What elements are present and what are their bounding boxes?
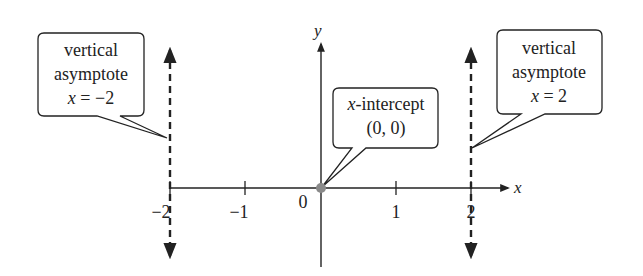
tick-label-neg1: −1 xyxy=(229,202,248,222)
callout-left-asymptote: vertical asymptote x = −2 xyxy=(38,33,167,138)
diagram: x y −2 −1 1 2 0 vertical asymptote x = −… xyxy=(0,0,643,276)
callout-left-line2: asymptote xyxy=(54,64,128,84)
callout-center-line2: (0, 0) xyxy=(367,118,406,139)
y-axis-label: y xyxy=(312,21,322,40)
x-axis-label: x xyxy=(513,178,522,197)
callout-x-intercept: x-intercept (0, 0) xyxy=(322,88,438,187)
callout-center-line1: x-intercept xyxy=(347,94,425,114)
callout-right-equation: x = 2 xyxy=(530,86,567,106)
origin-label: 0 xyxy=(299,192,308,212)
x-axis: x xyxy=(170,178,522,197)
callout-right-line2: asymptote xyxy=(512,62,586,82)
callout-right-asymptote: vertical asymptote x = 2 xyxy=(472,30,602,148)
callout-right-line1: vertical xyxy=(522,38,576,58)
x-ticks: −2 −1 1 2 0 xyxy=(151,181,475,222)
callout-left-line1: vertical xyxy=(64,40,118,60)
x-intercept-point xyxy=(316,183,326,193)
callout-left-equation: x = −2 xyxy=(67,88,114,108)
tick-label-neg2: −2 xyxy=(151,202,170,222)
y-axis: y xyxy=(312,21,322,267)
tick-label-1: 1 xyxy=(392,202,401,222)
